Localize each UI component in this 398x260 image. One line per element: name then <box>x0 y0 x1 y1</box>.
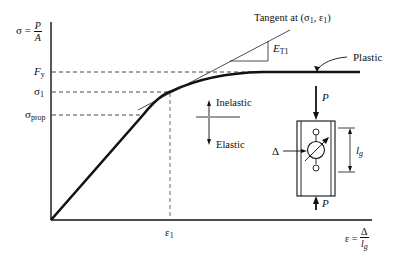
gauge-sub: g <box>359 149 363 158</box>
tick-epsilon1-sub: 1 <box>170 231 174 240</box>
inelastic-arrowhead <box>207 100 211 106</box>
x-axis-den-sub: g <box>364 242 368 251</box>
y-axis-numerator: P <box>34 20 42 32</box>
diagram-canvas <box>0 0 398 260</box>
tangent-text-a: Tangent at (σ <box>254 12 310 23</box>
y-axis-denominator: A <box>34 32 42 43</box>
elastic-arrowhead <box>207 139 211 145</box>
tick-sigma-prop-sub: prop <box>31 113 46 122</box>
tick-label-fy: Fy <box>34 66 45 79</box>
gauge-length-label: lg <box>356 145 363 158</box>
y-axis-label-fraction: P A <box>34 20 42 43</box>
tick-label-epsilon1: ε1 <box>165 227 174 240</box>
tangent-text-c: ) <box>327 12 331 23</box>
tick-label-sigma-prop: σprop <box>25 109 46 122</box>
plastic-pointer-arrow <box>317 57 347 70</box>
x-axis-label-fraction: Δ lg <box>360 226 368 252</box>
tangent-text-b: , ε <box>314 12 324 23</box>
tick-fy-sub: y <box>41 70 45 79</box>
x-axis-label: ε = Δ lg <box>345 226 369 252</box>
y-axis-label-lhs: σ = <box>16 24 31 36</box>
delta-label: Δ <box>272 146 279 157</box>
x-axis-numerator: Δ <box>360 226 368 238</box>
slope-label-et1: ET1 <box>273 43 289 56</box>
tick-label-sigma1: σ1 <box>34 86 44 99</box>
plastic-label: Plastic <box>353 52 382 63</box>
tangent-line <box>138 30 290 110</box>
x-axis-label-lhs: ε = <box>345 233 357 244</box>
slope-sub: T1 <box>280 47 289 56</box>
x-axis-denominator: lg <box>360 238 368 252</box>
inelastic-label: Inelastic <box>216 98 252 109</box>
elastic-label: Elastic <box>216 140 245 151</box>
slope-triangle <box>230 41 268 61</box>
specimen-figure <box>283 86 355 210</box>
load-label-bottom: P <box>322 198 329 209</box>
y-axis-label: σ = P A <box>16 20 42 43</box>
tangent-label: Tangent at (σ1, ε1) <box>254 13 331 25</box>
load-label-top: P <box>322 92 329 103</box>
slope-main: E <box>273 42 280 54</box>
tick-fy-main: F <box>34 65 41 77</box>
tick-sigma1-sub: 1 <box>40 90 44 99</box>
